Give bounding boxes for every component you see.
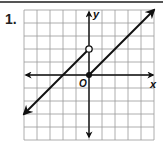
closed-dot-endpoint	[86, 72, 92, 78]
x-axis-label: x	[149, 78, 157, 90]
open-circle-endpoint	[86, 46, 92, 52]
coordinate-graph: x y O	[0, 0, 163, 144]
y-axis-label: y	[92, 8, 100, 20]
origin-label: O	[79, 78, 87, 89]
